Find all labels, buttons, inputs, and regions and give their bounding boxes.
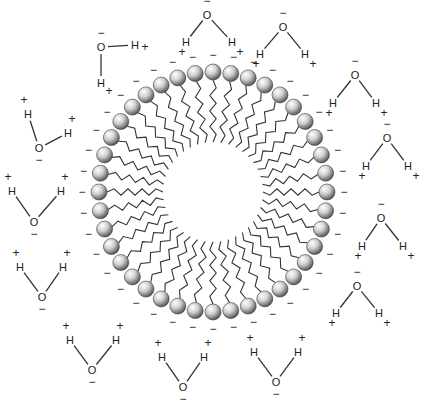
tail-chain xyxy=(261,208,314,228)
hydrogen-partial-positive: + xyxy=(116,319,123,333)
negative-charge: − xyxy=(117,282,124,296)
o-h-bond xyxy=(340,292,352,308)
oxygen-atom: O xyxy=(351,69,360,81)
negative-charge: − xyxy=(209,48,216,62)
polar-head-sphere xyxy=(187,66,203,82)
polar-head-sphere xyxy=(319,184,335,200)
o-h-bond xyxy=(370,144,383,161)
hydrogen-atom: H xyxy=(294,346,302,358)
hydrogen-partial-positive: + xyxy=(246,331,253,345)
water-molecule: O−H+H+ xyxy=(354,197,414,263)
tail-chain xyxy=(194,241,206,302)
polar-head-sphere xyxy=(318,165,334,181)
tail-chain xyxy=(262,174,317,186)
hydrogen-atom: H xyxy=(399,240,407,252)
polar-head-sphere xyxy=(297,255,313,271)
tail-chain xyxy=(258,141,308,169)
o-h-bond xyxy=(30,121,37,142)
hydrogen-atom: H xyxy=(228,36,236,48)
polar-head-sphere xyxy=(170,298,186,314)
hydrogen-partial-positive: + xyxy=(141,40,148,54)
negative-charge: − xyxy=(334,227,341,241)
hydrogen-atom: H xyxy=(57,185,65,197)
negative-charge: − xyxy=(80,164,87,178)
hydrogen-partial-positive: + xyxy=(252,57,259,71)
negative-charge: − xyxy=(132,74,139,88)
polar-head-sphere xyxy=(92,203,108,219)
polar-head-sphere xyxy=(257,291,273,307)
negative-charge: − xyxy=(209,322,216,336)
tail-chain xyxy=(248,113,288,157)
hydrogen-partial-positive: + xyxy=(20,93,27,107)
oxygen-partial-negative: − xyxy=(88,375,95,389)
o-h-bond xyxy=(391,144,404,161)
polar-head-sphere xyxy=(138,281,154,297)
hydrogen-atom: H xyxy=(64,127,72,139)
hydrogen-partial-positive: + xyxy=(328,316,335,330)
water-molecule: O−H+H+ xyxy=(20,93,75,167)
oxygen-partial-negative: − xyxy=(351,54,358,68)
polar-head-sphere xyxy=(153,77,169,93)
polar-head-sphere xyxy=(313,147,329,163)
polar-head-sphere xyxy=(272,281,288,297)
water-molecule: O−H+H+ xyxy=(62,319,123,389)
negative-charge: − xyxy=(339,164,346,178)
hydrogen-atom: H xyxy=(24,108,32,120)
oxygen-partial-negative: − xyxy=(38,302,45,316)
water-molecule: O−H+H+ xyxy=(4,170,68,241)
oxygen-atom: O xyxy=(279,21,288,33)
polar-head-sphere xyxy=(138,87,154,103)
o-h-bond xyxy=(108,45,128,46)
polar-head-sphere xyxy=(91,184,107,200)
negative-charge: − xyxy=(150,307,157,321)
tail-chain xyxy=(210,80,216,142)
hydrophobic-tails xyxy=(107,80,319,304)
polar-head-sphere xyxy=(307,130,323,146)
polar-head-sphere xyxy=(92,165,108,181)
oxygen-partial-negative: − xyxy=(353,265,360,279)
negative-charge: − xyxy=(302,282,309,296)
o-h-bond xyxy=(96,346,111,365)
polar-head-sphere xyxy=(113,114,129,130)
oxygen-partial-negative: − xyxy=(272,387,279,401)
polar-head-sphere xyxy=(187,303,203,319)
tail-chain xyxy=(242,233,275,283)
tail-chain xyxy=(220,81,232,142)
polar-head-sphere xyxy=(97,221,113,237)
tail-chain xyxy=(108,173,163,185)
hydrogen-atom: H xyxy=(375,307,383,319)
negative-charge: − xyxy=(269,307,276,321)
negative-charge: − xyxy=(339,206,346,220)
negative-charge: − xyxy=(169,55,176,69)
negative-charge: − xyxy=(80,206,87,220)
diagram-canvas: −−−−−−−−−−−−−−−−−−−−−−−−−−−−−−−−−−−−−−−−… xyxy=(0,0,427,411)
negative-charge: − xyxy=(230,320,237,334)
tail-chain xyxy=(236,237,261,292)
polar-head-sphere xyxy=(113,255,129,271)
tail-chain xyxy=(179,240,197,299)
polar-head-sphere xyxy=(297,114,313,130)
negative-charge: − xyxy=(302,88,309,102)
oxygen-partial-negative: − xyxy=(30,227,37,241)
hydrogen-partial-positive: + xyxy=(412,169,419,183)
negative-charge: − xyxy=(132,296,139,310)
negative-charge: − xyxy=(169,315,176,329)
hydrogen-atom: H xyxy=(97,77,105,89)
hydrogen-partial-positive: + xyxy=(236,45,243,59)
oxygen-partial-negative: − xyxy=(279,6,286,20)
negative-charge: − xyxy=(286,296,293,310)
hydrogen-partial-positive: + xyxy=(68,112,75,126)
polar-head-sphere xyxy=(318,203,334,219)
negative-charge: − xyxy=(85,227,92,241)
polar-head-sphere xyxy=(223,303,239,319)
tail-chain xyxy=(263,189,319,195)
polar-head-sphere xyxy=(153,291,169,307)
hydrogen-partial-positive: + xyxy=(63,246,70,260)
oxygen-partial-negative: − xyxy=(97,26,104,40)
polar-head-sphere xyxy=(103,130,119,146)
hydrogen-partial-positive: + xyxy=(204,336,211,350)
o-h-bond xyxy=(166,363,179,382)
o-h-bond xyxy=(39,196,57,216)
negative-charge: − xyxy=(315,266,322,280)
polar-head-sphere xyxy=(313,221,329,237)
